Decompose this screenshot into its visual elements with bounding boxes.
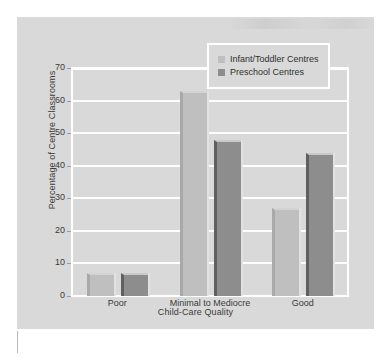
y-axis-tick-mark [67, 101, 71, 102]
y-axis-title: Percentage of Centre Classrooms [47, 45, 57, 235]
legend-swatch-icon [218, 69, 225, 76]
legend-swatch-icon [218, 56, 225, 63]
y-axis-tick-label: 10 [39, 257, 65, 267]
y-axis-tick-mark [67, 133, 71, 134]
legend-label: Preschool Centres [230, 66, 304, 78]
y-axis-tick-label: 40 [39, 160, 65, 170]
x-axis-ticks: PoorMinimal to MediocreGood [71, 298, 349, 312]
y-axis-tick-label: 50 [39, 127, 65, 137]
legend-label: Infant/Toddler Centres [230, 53, 319, 65]
chart-legend: Infant/Toddler Centres Preschool Centres [207, 43, 330, 89]
legend-item-preschool: Preschool Centres [218, 66, 319, 78]
y-axis-tick-mark [67, 68, 71, 69]
y-axis-ticks: 010203040506070 [71, 68, 349, 296]
y-axis-tick-label: 70 [39, 62, 65, 72]
y-axis-tick-label: 0 [39, 290, 65, 300]
x-axis-tick-label: Good [292, 298, 314, 308]
x-axis-tick-label: Minimal to Mediocre [170, 298, 251, 308]
y-axis-tick-label: 30 [39, 192, 65, 202]
chart-figure: Percentage of Centre Classrooms Child-Ca… [17, 17, 374, 329]
y-axis-tick-mark [67, 263, 71, 264]
y-axis-tick-label: 60 [39, 95, 65, 105]
y-axis-tick-label: 20 [39, 225, 65, 235]
x-axis-tick-label: Poor [108, 298, 127, 308]
legend-item-infant-toddler: Infant/Toddler Centres [218, 53, 319, 65]
y-axis-tick-mark [67, 166, 71, 167]
page-margin-rule [17, 331, 18, 353]
y-axis-tick-mark [67, 296, 71, 297]
y-axis-tick-mark [67, 231, 71, 232]
y-axis-tick-mark [67, 198, 71, 199]
scan-artifact [227, 19, 377, 29]
